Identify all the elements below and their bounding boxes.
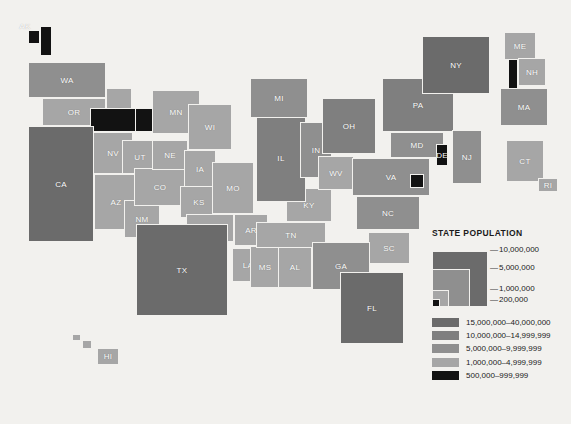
map-figure: AKHIWAORIDNVCAUTAZNMCONEMNWIIAKSMOOKTXAR… (0, 0, 571, 424)
state-co: CO (134, 168, 186, 206)
legend-tick-value: 1,000,000 (499, 284, 535, 293)
state-fl: FL (340, 272, 404, 344)
state-label: MI (251, 79, 307, 117)
map-legend: STATE POPULATION —10,000,000—5,000,000—1… (428, 228, 571, 418)
state-label: RI (539, 179, 557, 191)
state-hi: HI (97, 348, 119, 365)
legend-color-swatch (432, 358, 459, 367)
legend-color-swatch (432, 318, 459, 327)
legend-color-swatch (432, 344, 459, 353)
state-mt (90, 108, 136, 132)
legend-range-label: 15,000,000–40,000,000 (466, 318, 551, 327)
state-label: FL (341, 273, 403, 343)
legend-tick: —200,000 (490, 295, 528, 304)
state-label: MS (251, 247, 279, 287)
state-mo: MO (212, 162, 254, 214)
state-ak (40, 26, 52, 56)
state-ak: AK (28, 30, 40, 44)
legend-class-row: 500,000–999,999 (432, 369, 571, 382)
state-label: SC (369, 233, 409, 263)
state-nj: NJ (452, 130, 482, 184)
state-label: MO (213, 163, 253, 213)
state-label: NH (519, 59, 545, 85)
legend-tick-value: 5,000,000 (499, 263, 535, 272)
state-label: NY (423, 37, 489, 93)
state-label: MA (501, 89, 547, 125)
state-wi: WI (188, 104, 232, 150)
state-label: WA (29, 63, 105, 97)
state-oh: OH (322, 98, 376, 154)
legend-title: STATE POPULATION (432, 228, 522, 238)
legend-size-box-4 (432, 299, 440, 307)
state-ny: NY (422, 36, 490, 94)
state-ri: RI (538, 178, 558, 192)
state-label: NE (153, 141, 187, 169)
state-label: TX (137, 225, 227, 315)
state-al: AL (278, 246, 312, 288)
legend-class-list: 15,000,000–40,000,00010,000,000–14,999,9… (432, 316, 571, 382)
state-label: OH (323, 99, 375, 153)
state-ct: CT (506, 140, 544, 182)
state-ms: MS (250, 246, 280, 288)
state-label: IA (185, 151, 215, 187)
state-label: WI (189, 105, 231, 149)
legend-range-label: 5,000,000–9,999,999 (466, 344, 542, 353)
state-hi (72, 334, 81, 341)
legend-tick-value: 200,000 (499, 295, 528, 304)
legend-class-row: 5,000,000–9,999,999 (432, 342, 571, 355)
state-tx: TX (136, 224, 228, 316)
state-label: AL (279, 247, 311, 287)
state-label: CT (507, 141, 543, 181)
legend-tick: —5,000,000 (490, 263, 535, 272)
state-nh: NH (518, 58, 546, 86)
state-label: HI (98, 349, 118, 364)
legend-range-label: 500,000–999,999 (466, 371, 528, 380)
legend-color-swatch (432, 371, 459, 380)
legend-range-label: 1,000,000–4,999,999 (466, 358, 542, 367)
state-sc: SC (368, 232, 410, 264)
state-nc: NC (356, 196, 420, 230)
state-label: IL (257, 115, 305, 201)
state-ma: MA (500, 88, 548, 126)
state-vt (508, 58, 518, 90)
legend-tick-value: 10,000,000 (499, 245, 539, 254)
state-label: NC (357, 197, 419, 229)
state-mi: MI (250, 78, 308, 118)
legend-class-row: 1,000,000–4,999,999 (432, 356, 571, 369)
legend-class-row: 10,000,000–14,999,999 (432, 329, 571, 342)
state-wv: WV (318, 156, 354, 190)
state-label: DE (437, 145, 447, 165)
legend-color-swatch (432, 331, 459, 340)
state-label: CO (135, 169, 185, 205)
state-il: IL (256, 114, 306, 202)
legend-class-row: 15,000,000–40,000,000 (432, 316, 571, 329)
state-dc (410, 174, 424, 188)
state-label: NJ (453, 131, 481, 183)
state-wa: WA (28, 62, 106, 98)
state-label: WV (319, 157, 353, 189)
state-ne: NE (152, 140, 188, 170)
state-label: ME (505, 33, 535, 59)
legend-tick: —1,000,000 (490, 284, 535, 293)
state-ca: CA (28, 126, 94, 242)
state-label: AK (20, 20, 30, 32)
state-hi (82, 340, 92, 349)
legend-tick: —10,000,000 (490, 245, 539, 254)
legend-nested-squares: —10,000,000—5,000,000—1,000,000—200,000 (432, 245, 492, 307)
state-me: ME (504, 32, 536, 60)
state-label: CA (29, 127, 93, 241)
state-de: DE (436, 144, 448, 166)
legend-range-label: 10,000,000–14,999,999 (466, 331, 551, 340)
